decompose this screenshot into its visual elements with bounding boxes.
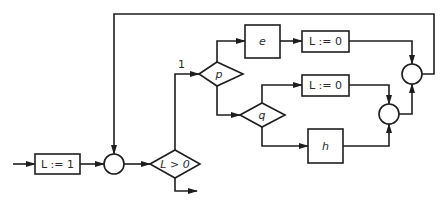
- join-main-circle: [104, 154, 124, 174]
- h-to-join-arrow: [343, 124, 389, 146]
- q-to-h-arrow: [262, 127, 308, 146]
- true-branch-arrow: [175, 74, 199, 150]
- join-upper-circle: [402, 64, 422, 84]
- assign-top-box: L := 0: [302, 31, 349, 52]
- join-lower-circle: [379, 104, 399, 124]
- assign-mid-to-join-arrow: [349, 85, 389, 104]
- flowchart: L := 1 L > 0 1 p e L := 0 q: [0, 0, 446, 203]
- test-L-diamond: L > 0: [150, 150, 200, 178]
- assign-top-to-join-arrow: [349, 41, 412, 64]
- p-to-q-arrow: [217, 86, 240, 115]
- init-box: L := 1: [35, 154, 80, 174]
- exit-arrow: [175, 178, 197, 191]
- test-p-label: p: [215, 68, 223, 81]
- assign-mid-box: L := 0: [302, 75, 349, 96]
- assign-top-label: L := 0: [309, 35, 342, 48]
- test-q-label: q: [259, 109, 266, 122]
- assign-mid-label: L := 0: [309, 79, 342, 92]
- p-to-e-arrow: [217, 41, 245, 62]
- true-branch-label: 1: [178, 58, 185, 71]
- q-to-assign-arrow: [262, 85, 302, 103]
- box-h: h: [308, 129, 343, 163]
- test-p-diamond: p: [199, 62, 243, 86]
- box-e: e: [245, 25, 280, 58]
- init-label: L := 1: [41, 158, 74, 171]
- test-q-diamond: q: [240, 103, 285, 127]
- box-h-label: h: [322, 140, 329, 153]
- join-lower-to-upper-arrow: [399, 84, 412, 114]
- test-L-label: L > 0: [160, 158, 189, 171]
- box-e-label: e: [259, 35, 266, 48]
